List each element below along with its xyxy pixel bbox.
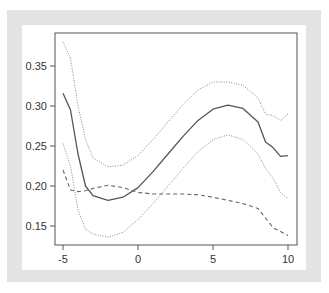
y-tick-label: 0.30 (26, 100, 47, 112)
y-tick-label: 0.25 (26, 140, 47, 152)
x-tick-label: 5 (210, 253, 216, 265)
x-tick-label: 0 (135, 253, 141, 265)
series-dashed-reference (63, 170, 288, 236)
series-upper-band (63, 42, 288, 167)
x-tick-label: -5 (58, 253, 68, 265)
series-estimate (63, 93, 288, 200)
series-lower-band (63, 135, 288, 237)
plot-area (55, 33, 297, 245)
x-tick-label: 10 (282, 253, 294, 265)
y-tick-label: 0.35 (26, 60, 47, 72)
line-chart: 0.150.200.250.300.35-50510 (0, 0, 329, 293)
y-tick-label: 0.20 (26, 180, 47, 192)
y-tick-label: 0.15 (26, 220, 47, 232)
